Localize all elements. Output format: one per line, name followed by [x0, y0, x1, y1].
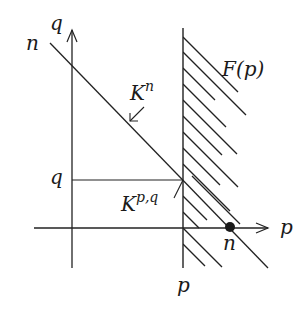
label-k-n: Kn — [129, 78, 154, 105]
label-q-axis: q — [50, 11, 63, 35]
label-intercept-n: n — [223, 231, 236, 255]
diagram-canvas: n q F(p) Kn q Kp,q p n p — [0, 0, 307, 317]
label-q-tick: q — [50, 165, 63, 189]
label-region-base: F — [221, 57, 237, 81]
label-region-f-p: F(p) — [221, 57, 264, 81]
k-n-pointer-arrow-icon — [130, 107, 144, 121]
k-pq-pointer — [174, 180, 183, 198]
label-diagonal-start-n: n — [26, 31, 39, 55]
label-k-n-sup: n — [145, 78, 154, 94]
label-p-tick: p — [177, 273, 190, 297]
label-p-axis: p — [280, 215, 293, 239]
label-k-pq-sup: p,q — [136, 189, 158, 205]
label-k-pq: Kp,q — [120, 189, 158, 216]
label-k-pq-base: K — [120, 192, 137, 216]
label-region-arg: (p) — [236, 57, 264, 81]
label-k-n-base: K — [129, 81, 146, 105]
